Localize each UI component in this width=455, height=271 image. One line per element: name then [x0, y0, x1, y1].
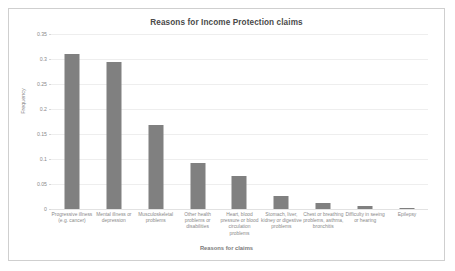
x-axis-tick-label: Stomach, liver, kidney or digestive prob… — [260, 212, 302, 231]
bar-slot — [135, 34, 177, 209]
y-axis-tick-mark — [49, 209, 51, 210]
x-axis-tick-label: Epilepsy — [386, 212, 428, 218]
bar-slot — [386, 34, 428, 209]
bar[interactable] — [232, 176, 247, 210]
bar-slot — [260, 34, 302, 209]
x-axis-tick-label: Progressive illness (e.g. cancer) — [51, 212, 93, 224]
bar[interactable] — [106, 62, 121, 210]
bar-slot — [219, 34, 261, 209]
gridline — [51, 209, 428, 210]
y-axis-label: Frequency — [20, 88, 26, 113]
x-axis-tick-label: Heart, blood pressure or blood circulati… — [219, 212, 261, 237]
y-axis-tick-label: 0 — [44, 206, 47, 212]
chart-title: Reasons for Income Protection claims — [9, 18, 444, 27]
plot-area: 0.350.30.250.20.150.10.050 — [51, 34, 428, 209]
bar-slot — [51, 34, 93, 209]
chart-container: Reasons for Income Protection claims Fre… — [8, 8, 445, 261]
y-axis-tick-label: 0.2 — [40, 106, 47, 112]
x-axis-tick-label: Musculoskeletal problems — [135, 212, 177, 224]
y-axis-tick-label: 0.25 — [37, 81, 47, 87]
x-axis-tick-label: Chest or breathing problems, asthma, bro… — [302, 212, 344, 231]
y-axis-tick-label: 0.35 — [37, 31, 47, 37]
bar[interactable] — [358, 206, 373, 210]
bar-slot — [177, 34, 219, 209]
bar[interactable] — [148, 125, 163, 209]
x-axis-tick-label: Difficulty in seeing or hearing — [344, 212, 386, 224]
bar[interactable] — [316, 203, 331, 209]
bar[interactable] — [190, 163, 205, 210]
bar-slot — [93, 34, 135, 209]
x-axis-tick-label: Mental illness or depression — [93, 212, 135, 224]
bar-series — [51, 34, 428, 209]
x-axis-tick-labels: Progressive illness (e.g. cancer)Mental … — [51, 212, 428, 260]
bar-slot — [344, 34, 386, 209]
bar[interactable] — [400, 208, 415, 209]
y-axis-tick-label: 0.3 — [40, 56, 47, 62]
x-axis-tick-label: Other health problems or disabilities — [177, 212, 219, 231]
y-axis-tick-label: 0.05 — [37, 181, 47, 187]
bar-slot — [302, 34, 344, 209]
y-axis-tick-label: 0.15 — [37, 131, 47, 137]
y-axis-tick-label: 0.1 — [40, 156, 47, 162]
x-axis-label: Reasons for claims — [9, 245, 444, 251]
bar[interactable] — [64, 54, 79, 209]
bar[interactable] — [274, 196, 289, 210]
